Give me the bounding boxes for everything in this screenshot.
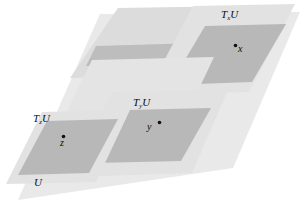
label-tangent-y-tail: U <box>142 96 150 108</box>
point-marker-y <box>158 121 162 125</box>
figure-canvas <box>0 0 306 211</box>
point-label-y: y <box>147 122 152 132</box>
label-tangent-x-tail: U <box>230 8 238 20</box>
point-label-x: x <box>238 44 243 54</box>
point-label-z: z <box>60 138 64 148</box>
label-tangent-x: TxU <box>221 9 238 22</box>
label-manifold-u: U <box>34 177 42 188</box>
tangent-space-figure: TxU TyU TzU U x y z <box>0 0 306 211</box>
label-tangent-z-tail: U <box>42 112 50 124</box>
label-tangent-y: TyU <box>133 97 150 110</box>
label-tangent-z: TzU <box>33 113 50 126</box>
point-marker-x <box>234 44 238 48</box>
